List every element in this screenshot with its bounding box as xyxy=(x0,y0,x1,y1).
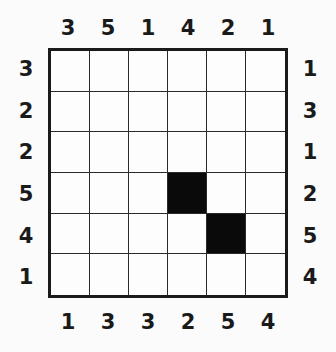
grid-cell[interactable] xyxy=(51,173,90,214)
grid-cell[interactable] xyxy=(129,254,168,295)
clue-bottom-5: 5 xyxy=(213,308,243,336)
grid-cell[interactable] xyxy=(168,254,207,295)
clue-left-3: 2 xyxy=(11,138,41,166)
grid-cell[interactable] xyxy=(129,132,168,173)
grid-cell[interactable] xyxy=(51,132,90,173)
grid-cell[interactable] xyxy=(246,254,285,295)
grid-cell[interactable] xyxy=(207,132,246,173)
clue-top-6: 1 xyxy=(253,14,283,42)
clue-left-5: 4 xyxy=(11,222,41,250)
grid-cell[interactable] xyxy=(246,51,285,92)
clue-bottom-6: 4 xyxy=(253,308,283,336)
grid-cell[interactable] xyxy=(90,132,129,173)
clue-top-3: 1 xyxy=(133,14,163,42)
grid-cell[interactable] xyxy=(90,214,129,255)
clue-right-6: 4 xyxy=(295,263,325,291)
clue-left-4: 5 xyxy=(11,180,41,208)
clue-bottom-3: 3 xyxy=(133,308,163,336)
grid-cell[interactable] xyxy=(90,51,129,92)
grid-cell[interactable] xyxy=(168,214,207,255)
grid-cell[interactable] xyxy=(207,254,246,295)
grid-cell-filled[interactable] xyxy=(168,173,207,214)
clue-bottom-2: 3 xyxy=(93,308,123,336)
grid-cell[interactable] xyxy=(168,92,207,133)
grid-cell[interactable] xyxy=(90,254,129,295)
grid-cell[interactable] xyxy=(207,51,246,92)
clue-left-6: 1 xyxy=(11,263,41,291)
grid-cell[interactable] xyxy=(168,51,207,92)
grid-cell[interactable] xyxy=(246,92,285,133)
grid-cell[interactable] xyxy=(207,173,246,214)
clue-right-5: 5 xyxy=(295,222,325,250)
grid-cell[interactable] xyxy=(51,214,90,255)
grid-cell[interactable] xyxy=(129,214,168,255)
clue-right-4: 2 xyxy=(295,180,325,208)
clue-right-2: 3 xyxy=(295,97,325,125)
clue-top-4: 4 xyxy=(173,14,203,42)
grid-cell-filled[interactable] xyxy=(207,214,246,255)
grid-cell[interactable] xyxy=(129,51,168,92)
grid-cell[interactable] xyxy=(90,173,129,214)
grid-cell[interactable] xyxy=(246,173,285,214)
grid-cell[interactable] xyxy=(246,132,285,173)
clue-left-1: 3 xyxy=(11,55,41,83)
grid-cell[interactable] xyxy=(90,92,129,133)
puzzle-grid xyxy=(48,48,288,298)
clue-top-1: 3 xyxy=(53,14,83,42)
clue-left-2: 2 xyxy=(11,97,41,125)
clue-bottom-1: 1 xyxy=(53,308,83,336)
grid-cell[interactable] xyxy=(129,173,168,214)
clue-top-2: 5 xyxy=(93,14,123,42)
clue-top-5: 2 xyxy=(213,14,243,42)
grid-cell[interactable] xyxy=(129,92,168,133)
grid-cell[interactable] xyxy=(168,132,207,173)
grid-cell[interactable] xyxy=(51,51,90,92)
grid-cell[interactable] xyxy=(51,92,90,133)
grid-cell[interactable] xyxy=(207,92,246,133)
grid-cell[interactable] xyxy=(246,214,285,255)
clue-bottom-4: 2 xyxy=(173,308,203,336)
clue-right-1: 1 xyxy=(295,55,325,83)
clue-right-3: 1 xyxy=(295,138,325,166)
grid-cell[interactable] xyxy=(51,254,90,295)
